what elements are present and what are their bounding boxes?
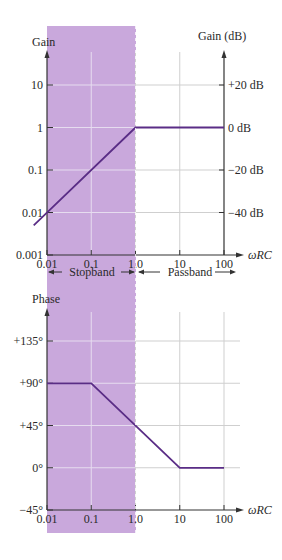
stopband-label: Stopband	[69, 265, 114, 279]
phase-x-axis-label: ωRC	[248, 503, 273, 517]
gain-x-axis-label: ωRC	[248, 248, 273, 262]
phase-x-tick-label: 0.01	[37, 512, 58, 526]
gain-x-tick-label: 0.01	[37, 257, 58, 271]
gain-db-axis-label: Gain (dB)	[198, 29, 246, 43]
gain-y-axis-label: Gain	[32, 35, 55, 49]
gain-x-axis-arrowhead	[236, 253, 244, 258]
passband-label: Passband	[168, 265, 213, 279]
phase-y-tick-label: 0°	[32, 461, 43, 475]
phase-x-tick-label: 100	[215, 512, 233, 526]
phase-y-tick-label: +90°	[19, 376, 43, 390]
phase-x-tick-label: 0.1	[84, 512, 99, 526]
phase-x-axis-arrowhead	[236, 508, 244, 513]
gain-db-axis-arrowhead	[222, 50, 227, 58]
phase-x-tick-label: 10	[174, 512, 186, 526]
gain-y-tick-label: 0.1	[28, 163, 43, 177]
phase-y-tick-label: +45°	[19, 419, 43, 433]
gain-db-tick-label: 0 dB	[228, 121, 251, 135]
passband-arrowhead-right	[230, 270, 236, 275]
gain-db-tick-label: −20 dB	[228, 163, 264, 177]
gain-x-tick-label: 100	[215, 257, 233, 271]
phase-y-tick-label: +135°	[13, 334, 43, 348]
bode-plot: GainGain (dB)ωRC0.0010.010.1110−40 dB−20…	[0, 0, 282, 560]
gain-y-tick-label: 1	[37, 121, 43, 135]
gain-y-tick-label: 10	[31, 78, 43, 92]
gain-y-tick-label: 0.01	[22, 206, 43, 220]
phase-y-axis-label: Phase	[32, 292, 60, 306]
gain-db-tick-label: +20 dB	[228, 78, 264, 92]
gain-db-tick-label: −40 dB	[228, 206, 264, 220]
